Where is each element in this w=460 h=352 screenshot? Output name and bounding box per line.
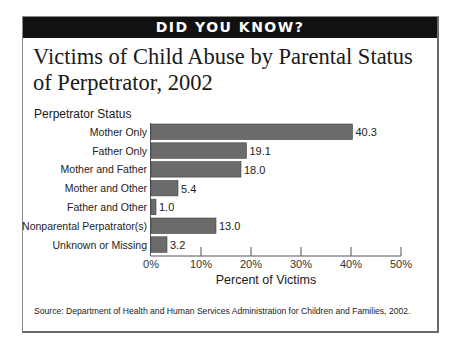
bar — [151, 162, 241, 178]
value-label: 1.0 — [159, 201, 174, 213]
x-tick-label: 30% — [290, 258, 312, 270]
value-label: 19.1 — [250, 145, 271, 157]
bar — [151, 124, 353, 140]
bar — [151, 180, 178, 196]
x-tick-label: 0% — [143, 258, 159, 270]
category-label: Father and Other — [67, 201, 147, 213]
x-tick-label: 50% — [390, 258, 412, 270]
category-label: Father Only — [92, 145, 148, 157]
category-label: Nonparental Perpatrator(s) — [22, 220, 147, 232]
x-tick-label: 10% — [190, 258, 212, 270]
category-label: Unknown or Missing — [52, 239, 147, 251]
bar — [151, 237, 167, 253]
bar — [151, 218, 216, 234]
y-axis-title: Perpetrator Status — [34, 107, 131, 121]
value-label: 40.3 — [356, 126, 377, 138]
value-label: 3.2 — [170, 239, 185, 251]
value-label: 5.4 — [181, 183, 196, 195]
x-tick-label: 40% — [340, 258, 362, 270]
bar-chart: Perpetrator Status 0%10%20%30%40%50%Moth… — [0, 0, 460, 352]
x-axis-title: Percent of Victims — [216, 273, 317, 287]
bar — [151, 199, 156, 215]
category-label: Mother Only — [90, 126, 148, 138]
category-label: Mother and Other — [65, 182, 148, 194]
bar — [151, 143, 247, 159]
x-tick-label: 20% — [240, 258, 262, 270]
plot-area: 0%10%20%30%40%50%Mother Only40.3Father O… — [22, 123, 412, 270]
value-label: 18.0 — [244, 164, 265, 176]
category-label: Mother and Father — [61, 163, 148, 175]
value-label: 13.0 — [219, 220, 240, 232]
